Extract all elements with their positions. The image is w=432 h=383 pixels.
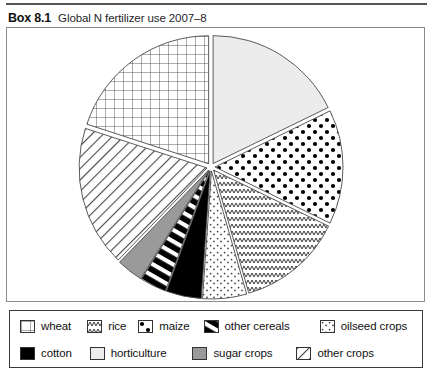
legend-label: horticulture bbox=[111, 347, 167, 359]
legend-swatch-stipple-icon bbox=[320, 320, 335, 333]
legend: wheatricemaizeother cerealsoilseed crops… bbox=[9, 310, 423, 368]
legend-label: sugar crops bbox=[213, 347, 272, 359]
legend-swatch-solid-light-icon bbox=[90, 347, 105, 360]
page-title: Global N fertilizer use 2007–8 bbox=[58, 12, 207, 24]
legend-label: other crops bbox=[317, 347, 373, 359]
legend-swatch-grid-icon bbox=[20, 320, 35, 333]
legend-item-other-cereals[interactable]: other cereals bbox=[204, 313, 290, 339]
legend-swatch-black-stripes-icon bbox=[204, 320, 219, 333]
figure-caption: Box 8.1Global N fertilizer use 2007–8 bbox=[8, 8, 408, 24]
legend-label: maize bbox=[159, 320, 189, 332]
pie-chart bbox=[6, 27, 425, 302]
footer-cut-text bbox=[10, 376, 410, 383]
legend-row-2: cottonhorticulturesugar cropsother crops bbox=[10, 340, 422, 366]
legend-swatch-solid-black-icon bbox=[20, 347, 35, 360]
legend-swatch-zigzag-icon bbox=[87, 320, 102, 333]
box-number: Box 8.1 bbox=[8, 11, 51, 25]
top-rule bbox=[6, 3, 427, 5]
legend-label: rice bbox=[108, 320, 126, 332]
legend-swatch-dots-large-icon bbox=[138, 320, 153, 333]
legend-item-maize[interactable]: maize bbox=[138, 313, 189, 339]
legend-swatch-diagonal-icon bbox=[296, 347, 311, 360]
legend-item-cotton[interactable]: cotton bbox=[20, 340, 72, 366]
legend-label: cotton bbox=[41, 347, 72, 359]
legend-item-wheat[interactable]: wheat bbox=[20, 313, 71, 339]
legend-label: wheat bbox=[41, 320, 71, 332]
pie-chart-svg bbox=[6, 27, 425, 302]
pie-slice-group bbox=[79, 36, 343, 299]
legend-item-horticulture[interactable]: horticulture bbox=[90, 340, 167, 366]
legend-item-oilseed-crops[interactable]: oilseed crops bbox=[320, 313, 407, 339]
figure-page: Box 8.1Global N fertilizer use 2007–8 bbox=[0, 0, 432, 383]
legend-row-1: wheatricemaizeother cerealsoilseed crops bbox=[10, 313, 422, 339]
legend-item-other-crops[interactable]: other crops bbox=[296, 340, 373, 366]
legend-item-sugar-crops[interactable]: sugar crops bbox=[192, 340, 272, 366]
legend-label: oilseed crops bbox=[341, 320, 407, 332]
legend-item-rice[interactable]: rice bbox=[87, 313, 126, 339]
legend-label: other cereals bbox=[225, 320, 290, 332]
legend-swatch-solid-gray-icon bbox=[192, 347, 207, 360]
